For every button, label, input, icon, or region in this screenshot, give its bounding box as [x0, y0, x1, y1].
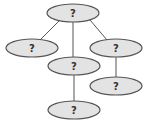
node-middle: ?: [48, 57, 100, 75]
edge-root-right: [90, 20, 107, 40]
tree-diagram: ? ? ? ? ? ?: [0, 0, 146, 123]
node-label: ?: [71, 105, 77, 116]
node-label: ?: [29, 43, 35, 54]
node-left: ?: [6, 39, 58, 57]
node-label: ?: [113, 43, 119, 54]
node-root: ?: [47, 4, 99, 22]
node-label: ?: [70, 8, 76, 19]
edge-root-left: [40, 20, 60, 40]
node-right: ?: [90, 39, 142, 57]
node-label: ?: [113, 81, 119, 92]
node-label: ?: [71, 61, 77, 72]
node-right-child: ?: [90, 77, 142, 95]
node-middle-child: ?: [48, 101, 100, 119]
